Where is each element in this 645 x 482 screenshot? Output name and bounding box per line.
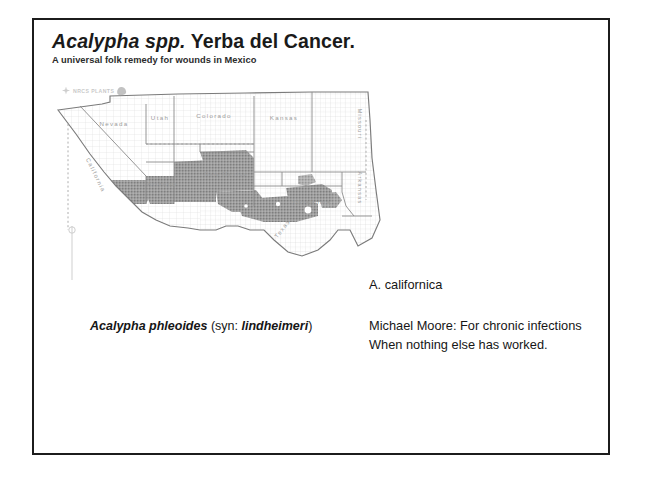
svg-text:Oklahoma: Oklahoma [293,198,332,205]
caption-acalypha-californica: A. californica [369,277,442,292]
practitioner-note-line-1: Michael Moore: For chronic infections [369,317,582,336]
svg-text:Kansas: Kansas [270,114,298,121]
svg-text:Arkansas: Arkansas [357,172,363,205]
caption-acalypha-phleoides: Acalypha phleoides (syn: lindheimeri) [90,319,312,333]
phleoides-synonym-lead: (syn: [207,319,241,333]
page-title: Acalypha spp. Yerba del Cancer. [52,30,572,52]
page-subtitle: A universal folk remedy for wounds in Me… [52,55,572,65]
phleoides-synonym-name: lindheimeri [241,319,308,333]
svg-text:New Mexico: New Mexico [204,171,247,177]
slide-frame: Acalypha spp. Yerba del Cancer. A univer… [32,18,610,455]
svg-text:Colorado: Colorado [196,112,232,119]
practitioner-note: Michael Moore: For chronic infections Wh… [369,317,582,354]
svg-text:Arizona: Arizona [147,180,177,187]
title-common-name: Yerba del Cancer. [186,30,355,52]
title-block: Acalypha spp. Yerba del Cancer. A univer… [52,30,572,65]
svg-text:Missouri: Missouri [357,109,363,139]
phleoides-species-name: Acalypha phleoides [90,319,207,333]
distribution-map: Nevada Utah Colorado Kansas Arizona New … [50,80,390,280]
svg-text:Nevada: Nevada [99,120,128,127]
practitioner-note-line-2: When nothing else has worked. [369,336,582,355]
svg-text:Utah: Utah [151,114,169,121]
distribution-map-graphic: Nevada Utah Colorado Kansas Arizona New … [50,80,390,280]
title-scientific-name: Acalypha spp. [52,30,186,52]
phleoides-synonym-close: ) [308,319,312,333]
